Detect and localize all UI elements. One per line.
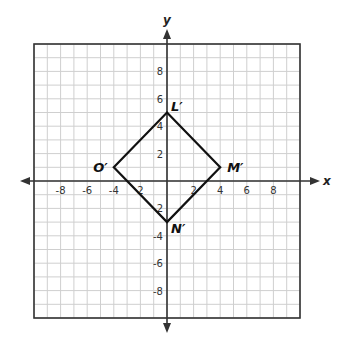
y-axis-arrow-up-icon (163, 29, 171, 39)
y-tick-label: -4 (153, 231, 163, 242)
x-tick-label: 6 (244, 185, 250, 196)
coordinate-plane-figure: -8-6-42246886422-4-6-8 L′M′N′O′ x y (0, 0, 344, 348)
y-axis-label: y (163, 13, 172, 27)
x-tick-label: 4 (217, 185, 223, 196)
y-tick-label: 8 (157, 66, 163, 77)
y-tick-label: 6 (157, 94, 163, 105)
x-axis-label: x (322, 174, 332, 188)
x-axis-arrow-right-icon (310, 177, 320, 185)
y-tick-label: -6 (153, 258, 163, 269)
y-axis-arrow-down-icon (163, 323, 171, 333)
x-tick-label: 8 (270, 185, 276, 196)
y-tick-label: 2 (157, 149, 163, 160)
x-tick-label: -8 (56, 185, 66, 196)
vertex-label: L′ (171, 99, 183, 114)
axes (20, 29, 320, 333)
vertex-label: O′ (93, 160, 108, 175)
x-tick-label: -6 (82, 185, 92, 196)
x-tick-label: -4 (109, 185, 119, 196)
x-axis-arrow-left-icon (20, 177, 30, 185)
vertex-label: N′ (171, 221, 186, 236)
y-tick-label: -8 (153, 286, 163, 297)
vertex-label: M′ (227, 160, 244, 175)
coordinate-plane: -8-6-42246886422-4-6-8 L′M′N′O′ x y (0, 0, 344, 348)
